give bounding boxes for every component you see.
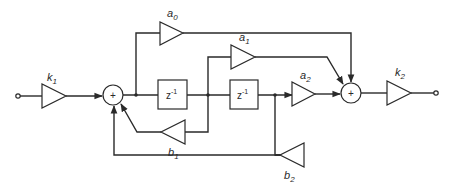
gain-b2-label: b2 — [284, 169, 295, 184]
gain-k1-amplifier — [42, 84, 66, 108]
gain-b1-amplifier — [161, 120, 185, 144]
wire-node-b-a1 — [208, 57, 231, 95]
wire-b1-adder1 — [121, 104, 161, 132]
wire-b2-adder1 — [114, 106, 280, 155]
gain-a1-amplifier — [231, 45, 255, 69]
gain-a2-label: a2 — [300, 69, 311, 84]
gain-b2-amplifier — [280, 143, 304, 167]
gain-k2-amplifier — [387, 81, 411, 105]
wire-node-a-a0 — [136, 33, 160, 95]
gain-k1-label: k1 — [47, 71, 57, 86]
gain-a0-label: a0 — [167, 7, 178, 22]
input-terminal — [16, 94, 20, 98]
wire-a1-adder2 — [255, 57, 343, 84]
gain-b1-label: b1 — [168, 146, 179, 161]
wire-node-b-b1 — [185, 95, 208, 132]
output-terminal — [434, 91, 438, 95]
gain-k2-label: k2 — [395, 66, 406, 81]
gain-a0-amplifier — [160, 22, 183, 45]
adder-1-plus-sign: + — [110, 90, 116, 101]
filter-block-diagram: k1 + a0 z-1 a1 b1 z-1 a2 b2 + k2 — [0, 0, 458, 195]
adder-2-plus-sign: + — [348, 88, 354, 99]
gain-a2-amplifier — [292, 82, 315, 106]
